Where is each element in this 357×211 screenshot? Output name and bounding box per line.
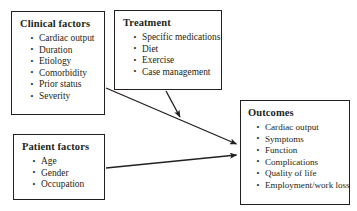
list-item: Diet (133, 44, 221, 56)
list-item: Gender (32, 168, 104, 180)
node-list-treatment: Specific medications Diet Exercise Case … (123, 32, 221, 78)
node-outcomes: Outcomes Cardiac output Symptoms Functio… (240, 100, 350, 205)
edge-patient-to-outcomes (106, 155, 237, 168)
list-item: Specific medications (133, 32, 221, 44)
list-item: Prior status (30, 79, 104, 91)
list-item: Cardiac output (256, 122, 349, 134)
node-list-patient-factors: Age Gender Occupation (22, 156, 104, 191)
list-item: Employment/work loss (256, 180, 349, 192)
list-item: Quality of life (256, 168, 349, 180)
list-item: Function (256, 145, 349, 157)
edge-clinical-to-outcomes (106, 88, 237, 144)
list-item: Exercise (133, 55, 221, 67)
edge-treatment-to-path (166, 91, 180, 117)
node-title-patient-factors: Patient factors (22, 141, 104, 153)
node-title-outcomes: Outcomes (248, 107, 349, 119)
list-item: Case management (133, 67, 221, 79)
list-item: Comorbidity (30, 68, 104, 80)
node-title-treatment: Treatment (123, 17, 221, 29)
list-item: Occupation (32, 179, 104, 191)
diagram-canvas: Clinical factors Cardiac output Duration… (0, 0, 357, 211)
node-clinical-factors: Clinical factors Cardiac output Duration… (11, 11, 105, 115)
node-patient-factors: Patient factors Age Gender Occupation (13, 134, 105, 200)
list-item: Severity (30, 91, 104, 103)
node-treatment: Treatment Specific medications Diet Exer… (114, 10, 222, 90)
list-item: Etiology (30, 56, 104, 68)
list-item: Complications (256, 157, 349, 169)
node-list-outcomes: Cardiac output Symptoms Function Complic… (248, 122, 349, 192)
list-item: Duration (30, 45, 104, 57)
list-item: Symptoms (256, 134, 349, 146)
list-item: Cardiac output (30, 33, 104, 45)
node-list-clinical-factors: Cardiac output Duration Etiology Comorbi… (20, 33, 104, 103)
node-title-clinical-factors: Clinical factors (20, 18, 104, 30)
list-item: Age (32, 156, 104, 168)
